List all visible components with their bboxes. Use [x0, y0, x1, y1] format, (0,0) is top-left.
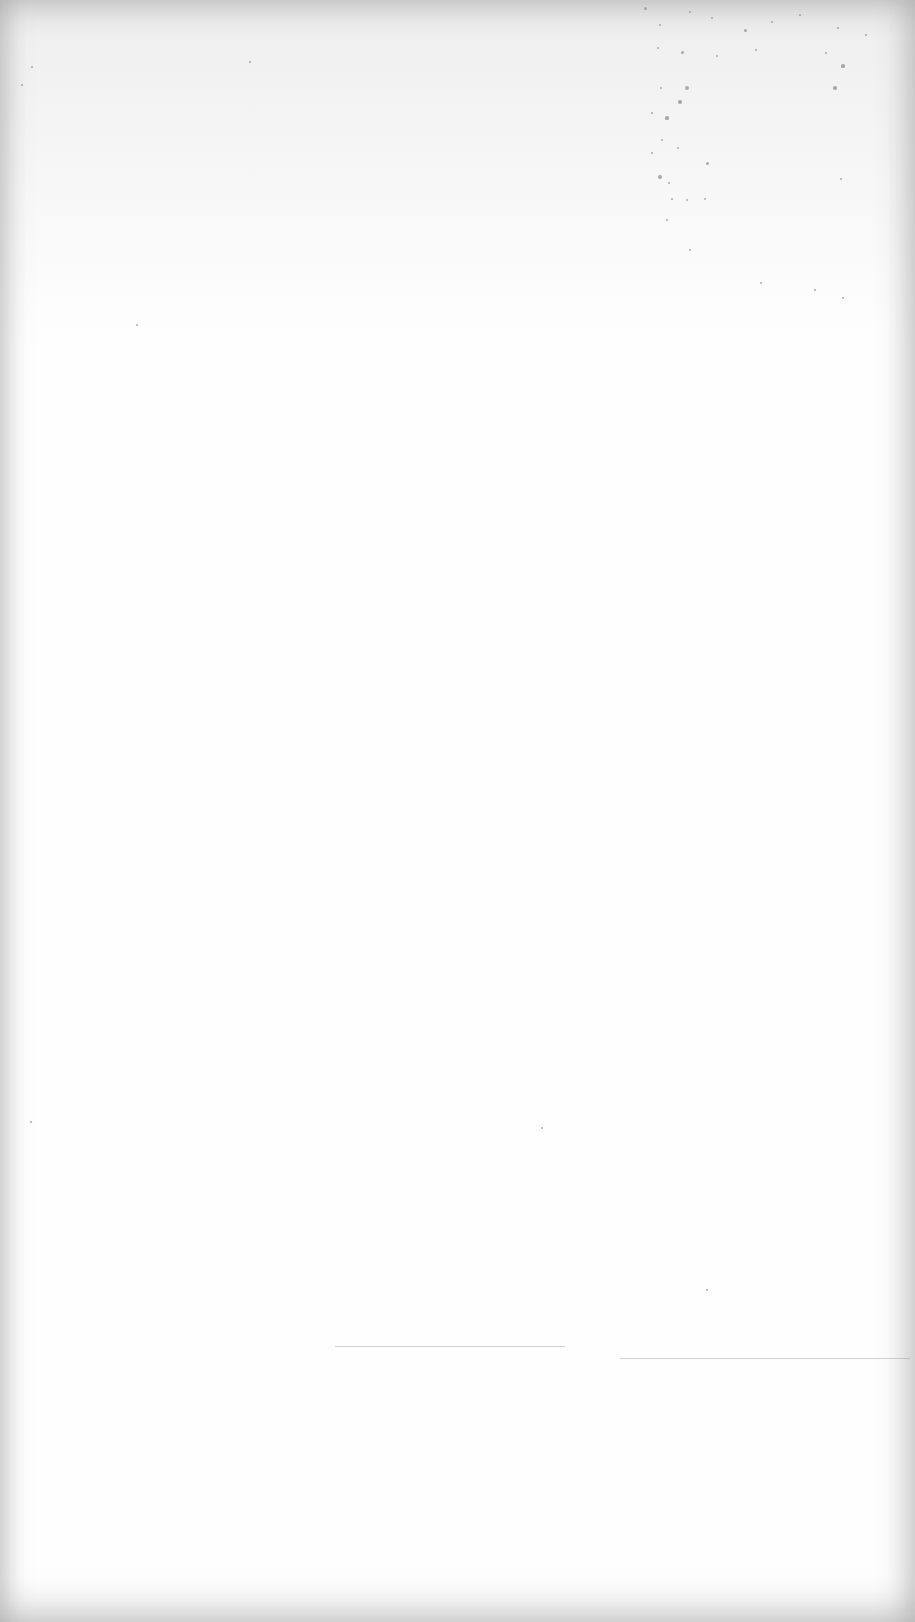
- speck: [842, 297, 845, 300]
- speck: [665, 116, 668, 119]
- speck: [668, 182, 670, 184]
- scan-line: [620, 1358, 910, 1359]
- scan-edge-shadow: [0, 0, 915, 1622]
- speck: [837, 27, 840, 30]
- speck: [706, 162, 709, 165]
- speck: [825, 52, 827, 54]
- speck: [21, 84, 24, 87]
- speck: [658, 175, 662, 179]
- speck: [681, 51, 684, 54]
- speck: [677, 147, 680, 150]
- speck: [689, 11, 691, 13]
- speck: [865, 34, 867, 36]
- speck: [685, 86, 689, 90]
- speck: [841, 64, 844, 67]
- scan-line: [335, 1346, 565, 1347]
- blank-document-page: [0, 0, 915, 1622]
- speck: [651, 112, 653, 114]
- speck: [744, 29, 747, 32]
- speck: [686, 199, 689, 202]
- speck: [833, 86, 837, 90]
- speck: [31, 66, 33, 68]
- speck: [651, 152, 653, 154]
- speck: [136, 324, 138, 326]
- speck: [541, 1127, 543, 1129]
- speck: [799, 14, 801, 16]
- speck: [666, 219, 668, 221]
- speck: [771, 21, 773, 23]
- speck: [249, 61, 251, 63]
- speck: [711, 17, 714, 20]
- scan-haze: [0, 0, 915, 340]
- speck: [659, 24, 661, 26]
- speck: [678, 100, 682, 104]
- speck: [704, 198, 707, 201]
- speck: [644, 7, 647, 10]
- speck: [657, 47, 660, 50]
- speck: [760, 282, 762, 284]
- speck: [814, 289, 816, 291]
- speck: [671, 198, 674, 201]
- speck: [689, 249, 691, 251]
- speck: [840, 178, 843, 181]
- speck: [716, 55, 718, 57]
- speck: [660, 87, 663, 90]
- speck: [30, 1121, 32, 1123]
- speck: [661, 139, 664, 142]
- speck: [755, 49, 757, 51]
- speck: [706, 1289, 708, 1291]
